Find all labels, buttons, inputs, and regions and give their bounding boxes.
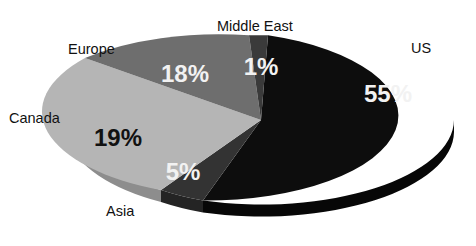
category-label-asia: Asia [106,203,134,219]
category-label-us: US [411,40,431,56]
category-label-middle-east: Middle East [217,18,293,34]
pie-chart-graphic: 55% 5% 19% 18% 1% [0,0,476,246]
slice-value-europe: 18% [161,60,209,87]
slice-value-asia: 5% [166,158,201,185]
slice-value-middle-east: 1% [244,53,279,80]
category-label-canada: Canada [9,110,60,126]
pie-chart: 55% 5% 19% 18% 1% US Middle East Europe … [0,0,476,246]
category-label-europe: Europe [68,41,115,57]
pie-top-faces [42,34,398,200]
slice-value-canada: 19% [94,124,142,151]
slice-value-us: 55% [364,80,412,107]
